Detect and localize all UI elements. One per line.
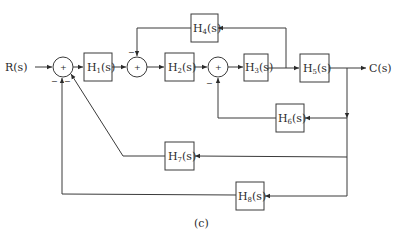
- svg-text:H2(s): H2(s): [168, 61, 196, 75]
- block-h7: H7(s): [165, 142, 196, 170]
- minus-sign: −: [51, 77, 58, 86]
- block-diagram: R(s) + − − H1(s) + − H2(s) + − H3(s): [0, 0, 408, 239]
- svg-text:H6(s): H6(s): [278, 112, 306, 126]
- block-h6: H6(s): [276, 104, 306, 132]
- figure-caption: (c): [194, 217, 209, 230]
- svg-text:H1(s): H1(s): [87, 61, 115, 75]
- svg-text:H7(s): H7(s): [168, 150, 196, 164]
- svg-text:+: +: [60, 63, 67, 72]
- svg-text:H8(s): H8(s): [238, 190, 266, 204]
- output-label: C(s): [369, 62, 392, 75]
- svg-text:H4(s): H4(s): [193, 22, 221, 36]
- block-h5: H5(s): [300, 54, 331, 82]
- svg-text:H5(s): H5(s): [303, 62, 331, 76]
- block-h1: H1(s): [84, 53, 115, 81]
- svg-text:+: +: [134, 63, 141, 72]
- summing-junction-3: + −: [206, 57, 228, 88]
- block-h8: H8(s): [236, 182, 266, 210]
- block-h4: H4(s): [191, 14, 221, 42]
- block-h2: H2(s): [165, 53, 196, 81]
- svg-text:+: +: [215, 63, 222, 72]
- minus-sign: −: [128, 48, 135, 57]
- minus-sign: −: [64, 77, 71, 86]
- input-label: R(s): [5, 61, 28, 74]
- minus-sign: −: [206, 79, 213, 88]
